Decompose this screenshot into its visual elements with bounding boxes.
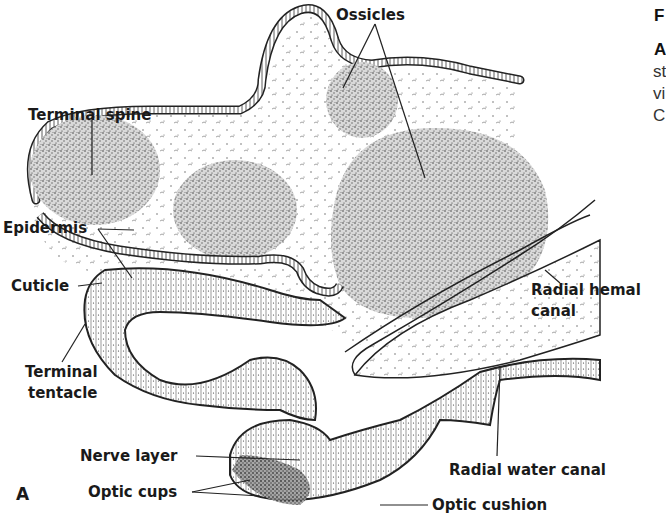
label-radial-hemal-canal-line1: Radial hemal	[531, 281, 641, 299]
label-nerve-layer: Nerve layer	[80, 447, 177, 465]
panel-letter: A	[16, 485, 29, 503]
caption-fragment-4: vi	[653, 84, 665, 104]
label-epidermis: Epidermis	[3, 219, 87, 237]
label-terminal-spine: Terminal spine	[28, 106, 151, 124]
ossicle-2	[173, 160, 297, 260]
label-cuticle: Cuticle	[11, 277, 69, 295]
caption-fragment-3: st	[653, 62, 666, 82]
label-terminal-tentacle-line2: tentacle	[28, 384, 98, 402]
caption-fragment-5: C	[653, 106, 665, 126]
label-terminal-tentacle-line1: Terminal	[25, 363, 98, 381]
caption-fragment-1: F	[654, 6, 664, 26]
label-radial-water-canal: Radial water canal	[449, 461, 606, 479]
caption-fragment-2: A	[654, 40, 666, 60]
label-optic-cups: Optic cups	[88, 483, 177, 501]
label-optic-cushion: Optic cushion	[432, 496, 547, 514]
ossicle-terminal	[30, 115, 160, 225]
ossicle-3	[326, 62, 398, 138]
label-radial-hemal-canal-line2: canal	[531, 302, 576, 320]
label-ossicles: Ossicles	[336, 6, 405, 24]
